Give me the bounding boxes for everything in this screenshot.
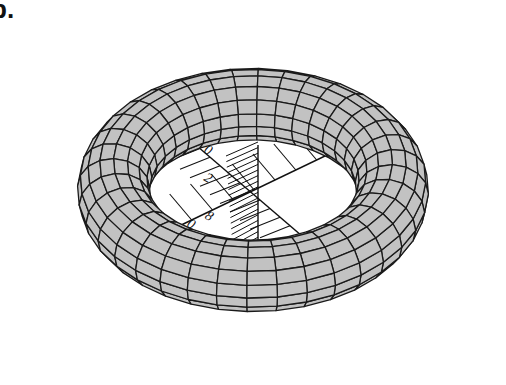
- torus-face: [237, 100, 257, 115]
- axis-tick: [274, 144, 296, 170]
- torus-face: [257, 87, 279, 102]
- torus-face: [217, 269, 247, 285]
- axis-tick-label: 0: [185, 216, 199, 232]
- torus-face: [257, 114, 276, 128]
- torus-face: [238, 126, 257, 136]
- torus-face: [247, 284, 278, 298]
- torus-face: [234, 76, 258, 87]
- hatch-line: [227, 159, 258, 173]
- torus-face: [238, 114, 257, 127]
- torus-face: [247, 271, 277, 286]
- torus-face: [247, 257, 276, 271]
- axis-tick-labels: 0280: [185, 142, 217, 232]
- axis-tick: [170, 194, 192, 220]
- torus-face: [257, 100, 277, 115]
- torus-face: [247, 297, 278, 307]
- torus-face: [377, 150, 392, 167]
- hatch-line: [232, 226, 258, 240]
- torus-face: [275, 101, 296, 118]
- hatch-line: [231, 209, 258, 223]
- axis-tick: [191, 184, 213, 210]
- torus-face: [218, 100, 238, 117]
- torus-face: [236, 87, 258, 101]
- axis-tick-label: 8: [203, 208, 217, 224]
- torus-face: [114, 159, 129, 175]
- torus-figure: 0280: [0, 0, 506, 385]
- hatch-line: [231, 215, 258, 229]
- torus-face: [248, 247, 275, 259]
- axis-tick: [210, 183, 240, 195]
- axis-tick: [180, 157, 210, 169]
- hatch-line: [229, 181, 258, 195]
- axis-tick: [260, 226, 290, 238]
- hatch-line: [227, 153, 258, 167]
